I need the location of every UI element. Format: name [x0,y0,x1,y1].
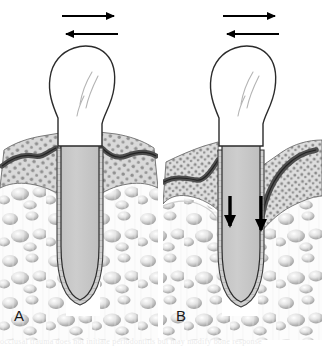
root-dentin-b [222,140,260,302]
figure-canvas: A [0,0,322,346]
panel-label-b: B [176,307,186,324]
root-dentin-a [61,140,99,300]
periodontal-figure: A [0,0,322,346]
panel-label-a: A [14,307,24,324]
